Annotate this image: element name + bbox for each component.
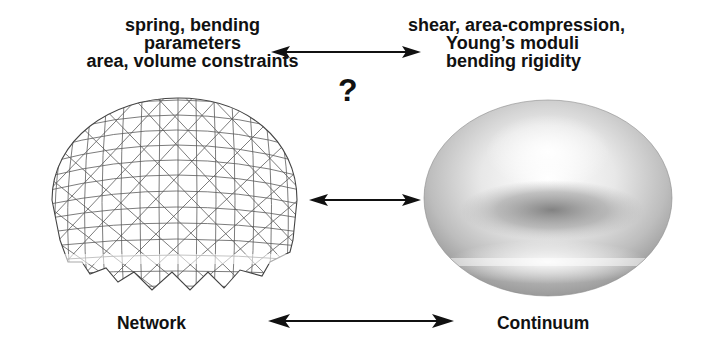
scan-artifact [0, 254, 310, 264]
network-label: Network [117, 312, 186, 334]
network-mesh-icon [40, 90, 310, 300]
continuum-surface-icon [420, 100, 680, 296]
network-continuum-arrow [268, 314, 454, 328]
parameter-mapping-arrow [271, 46, 421, 58]
continuum-label: Continuum [497, 312, 589, 334]
model-mapping-arrow [309, 194, 421, 206]
diagram-graphics [0, 0, 717, 349]
